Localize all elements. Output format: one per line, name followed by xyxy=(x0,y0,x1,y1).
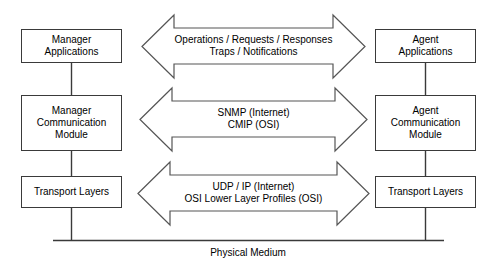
agent-communication-module-line-1: Agent xyxy=(376,105,475,117)
agent-communication-module-line-3: Module xyxy=(376,129,475,141)
diagram-canvas: Manager Applications Manager Communicati… xyxy=(0,0,496,273)
manager-transport-layers-line-1: Transport Layers xyxy=(22,186,121,198)
manager-communication-module-box[interactable]: Manager Communication Module xyxy=(21,95,122,151)
agent-transport-layers-line-1: Transport Layers xyxy=(376,186,475,198)
agent-applications-line-2: Applications xyxy=(376,46,475,58)
agent-applications-line-1: Agent xyxy=(376,34,475,46)
transport-protocol-arrow-shape xyxy=(138,162,369,225)
manager-applications-box[interactable]: Manager Applications xyxy=(21,29,122,63)
agent-applications-box[interactable]: Agent Applications xyxy=(375,29,476,63)
agent-transport-layers-box[interactable]: Transport Layers xyxy=(375,176,476,208)
application-layer-arrow-shape xyxy=(142,15,365,78)
manager-communication-module-line-1: Manager xyxy=(22,105,121,117)
manager-communication-module-line-2: Communication xyxy=(22,117,121,129)
agent-communication-module-line-2: Communication xyxy=(376,117,475,129)
manager-applications-line-1: Manager xyxy=(22,34,121,46)
management-protocol-arrow-shape xyxy=(140,88,367,151)
manager-applications-line-2: Applications xyxy=(22,46,121,58)
agent-communication-module-box[interactable]: Agent Communication Module xyxy=(375,95,476,151)
physical-medium-label: Physical Medium xyxy=(0,247,496,258)
manager-communication-module-line-3: Module xyxy=(22,129,121,141)
manager-transport-layers-box[interactable]: Transport Layers xyxy=(21,176,122,208)
